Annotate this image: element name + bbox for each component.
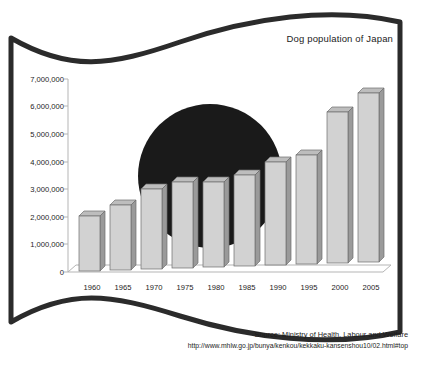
- bar-2005: [358, 88, 384, 262]
- ytick-label-4000000: 4,000,000: [30, 158, 64, 167]
- ytick-label-6000000: 6,000,000: [30, 102, 64, 111]
- source-text: Source: Ministry of Health, Labour and W…: [188, 330, 408, 341]
- xtick-label-1990: 1990: [270, 283, 287, 292]
- xtick-label-1985: 1985: [239, 283, 256, 292]
- xtick-label-2005: 2005: [363, 283, 380, 292]
- bar-1975: [172, 177, 198, 268]
- bar-1990: [265, 157, 291, 265]
- bar-1980: [203, 177, 229, 267]
- bar-2000: [327, 107, 353, 263]
- ytick-label-1000000: 1,000,000: [30, 240, 64, 249]
- ytick-label-0: 0: [60, 268, 64, 277]
- xtick-label-2000: 2000: [332, 283, 349, 292]
- ytick-label-7000000: 7,000,000: [30, 75, 64, 84]
- ytick-label-3000000: 3,000,000: [30, 185, 64, 194]
- xtick-label-1965: 1965: [115, 283, 132, 292]
- y-axis-ticks: [64, 79, 68, 272]
- xtick-label-1960: 1960: [84, 283, 101, 292]
- bar-1960: [79, 211, 105, 271]
- xtick-label-1995: 1995: [301, 283, 318, 292]
- bar-1985: [234, 170, 260, 266]
- bar-1965: [110, 200, 136, 270]
- xtick-label-1980: 1980: [208, 283, 225, 292]
- bar-1970: [141, 184, 167, 269]
- plot-area: [0, 0, 421, 365]
- xtick-label-1975: 1975: [177, 283, 194, 292]
- bar-1995: [296, 150, 322, 264]
- chart-figure: Dog population of Japan: [0, 0, 421, 365]
- source-url: http://www.mhlw.go.jp/bunya/kenkou/kekka…: [188, 341, 408, 351]
- source-attribution: Source: Ministry of Health, Labour and W…: [188, 330, 408, 351]
- ytick-label-5000000: 5,000,000: [30, 130, 64, 139]
- ytick-label-2000000: 2,000,000: [30, 213, 64, 222]
- xtick-label-1970: 1970: [146, 283, 163, 292]
